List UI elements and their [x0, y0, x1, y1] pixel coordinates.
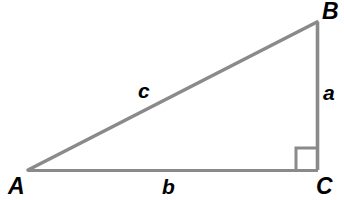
side-c-hypotenuse-line: [28, 22, 317, 170]
vertex-label-c: C: [316, 175, 333, 198]
side-label-c: c: [138, 80, 150, 101]
vertex-label-b: B: [322, 0, 339, 23]
vertex-label-a: A: [8, 175, 25, 198]
triangle-drawing: [0, 0, 344, 200]
side-label-b: b: [162, 176, 175, 197]
right-angle-marker-icon: [296, 148, 318, 170]
right-triangle-diagram: A B C a b c: [0, 0, 344, 200]
side-label-a: a: [323, 82, 335, 103]
